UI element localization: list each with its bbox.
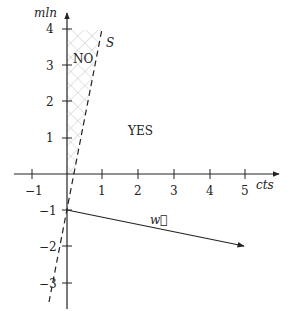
y-tick-label: 1 — [46, 131, 54, 145]
line-s-label: S — [106, 36, 114, 50]
y-tick-label: 3 — [46, 59, 54, 73]
x-tick-label: 1 — [98, 184, 106, 198]
y-tick-label: 2 — [46, 95, 54, 109]
y-axis-label: mln — [34, 6, 57, 20]
y-tick-label: −2 — [39, 240, 57, 254]
y-tick-label: −1 — [39, 204, 57, 218]
vector-w-label: w⃗ — [150, 213, 167, 227]
x-tick-label: 4 — [206, 184, 214, 198]
x-axis-label: cts — [256, 178, 274, 192]
x-tick-label: −1 — [25, 184, 43, 198]
x-tick-label: 5 — [241, 184, 249, 198]
decision-diagram: −1 1 2 3 4 5 4 3 2 1 −1 −2 −3 mln cts S … — [0, 0, 290, 311]
x-tick-label: 3 — [170, 184, 178, 198]
x-tick-label: 2 — [134, 184, 142, 198]
no-region-label: NO — [73, 52, 94, 66]
yes-region-label: YES — [127, 124, 153, 138]
y-tick-label: 4 — [46, 22, 54, 36]
